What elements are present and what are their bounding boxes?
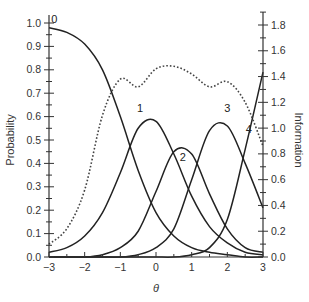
category-curve-2 xyxy=(49,148,263,257)
left-axis-tick-label: 0.7 xyxy=(26,87,41,99)
left-axis-tick-label: 0.5 xyxy=(26,134,41,146)
left-axis: 0.00.10.20.30.40.50.60.70.80.91.0 xyxy=(26,15,54,263)
x-axis-title: θ xyxy=(153,282,159,294)
category-curve-4 xyxy=(49,72,263,257)
left-axis-tick-label: 0.8 xyxy=(26,63,41,75)
curve-label-3: 3 xyxy=(224,102,230,114)
bottom-axis-tick-label: 1 xyxy=(189,261,195,273)
chart: 01234 0.00.10.20.30.40.50.60.70.80.91.0 … xyxy=(0,0,309,302)
bottom-axis-tick-label: −2 xyxy=(79,261,91,273)
left-axis-tick-label: 1.0 xyxy=(26,17,41,29)
bottom-axis-tick-label: 3 xyxy=(260,261,266,273)
right-axis: 0.00.20.40.60.81.01.21.41.61.8 xyxy=(258,12,286,262)
plot-curves: 01234 xyxy=(49,13,263,257)
left-axis-tick-label: 0.0 xyxy=(26,251,41,263)
curve-label-1: 1 xyxy=(137,102,143,114)
bottom-axis-tick-label: −1 xyxy=(114,261,126,273)
bottom-axis-tick-label: 2 xyxy=(224,261,230,273)
bottom-axis-tick-label: 0 xyxy=(153,261,159,273)
left-axis-tick-label: 0.4 xyxy=(26,157,41,169)
left-axis-tick-label: 0.2 xyxy=(26,204,41,216)
right-axis-tick-label: 0.2 xyxy=(271,225,286,237)
left-axis-tick-label: 0.3 xyxy=(26,180,41,192)
category-curve-0 xyxy=(49,28,263,257)
right-axis-tick-label: 0.6 xyxy=(271,173,286,185)
bottom-axis-tick-label: −3 xyxy=(43,261,55,273)
curve-label-2: 2 xyxy=(180,151,186,163)
right-axis-tick-label: 1.2 xyxy=(271,96,286,108)
right-axis-tick-label: 1.8 xyxy=(271,19,286,31)
curve-label-4: 4 xyxy=(246,123,252,135)
right-axis-tick-label: 0.0 xyxy=(271,251,286,263)
right-axis-tick-label: 0.4 xyxy=(271,199,286,211)
right-axis-tick-label: 1.6 xyxy=(271,44,286,56)
right-axis-tick-label: 1.4 xyxy=(271,70,286,82)
y-axis-right-title: Information xyxy=(293,112,305,167)
information-curve xyxy=(49,66,263,244)
left-axis-tick-label: 0.9 xyxy=(26,40,41,52)
y-axis-left-title: Probability xyxy=(4,114,16,166)
right-axis-tick-label: 1.0 xyxy=(271,122,286,134)
left-axis-tick-label: 0.1 xyxy=(26,227,41,239)
left-axis-tick-label: 0.6 xyxy=(26,110,41,122)
right-axis-tick-label: 0.8 xyxy=(271,147,286,159)
